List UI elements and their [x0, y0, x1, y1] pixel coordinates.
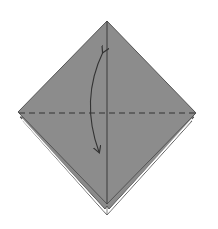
origami-diagram — [0, 0, 218, 229]
diagram-canvas — [0, 0, 218, 229]
